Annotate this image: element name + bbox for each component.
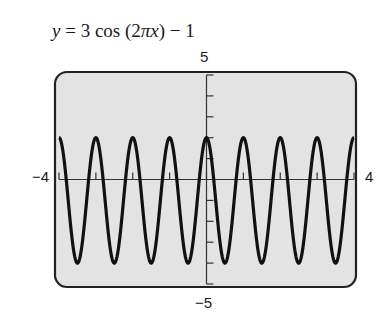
graph-screen — [0, 0, 388, 323]
